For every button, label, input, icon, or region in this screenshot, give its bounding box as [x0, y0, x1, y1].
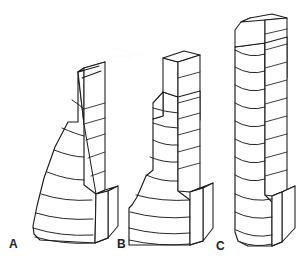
figure-b-right-face: [178, 91, 200, 192]
watermark-mark: [108, 49, 146, 59]
figure-a-step-front: [95, 191, 108, 243]
figure-a-right-face-upper: [84, 62, 105, 194]
figure-b-group: [129, 51, 213, 245]
figure-root: A B C: [0, 0, 302, 263]
figure-a-step-right: [108, 186, 118, 238]
figure-b-step-front: [190, 188, 203, 245]
figure-label-a: A: [9, 238, 18, 250]
figure-c-top-front: [235, 18, 265, 47]
figure-label-b: B: [117, 238, 126, 250]
figure-label-c: C: [216, 240, 225, 252]
figure-c-step-right: [282, 186, 295, 242]
figure-a-group: [33, 62, 118, 243]
figure-b-shoulder-facet: [153, 92, 163, 119]
figure-b-step-right: [203, 183, 213, 241]
figure-c-step-front: [272, 192, 282, 246]
figure-b-top-front: [163, 58, 178, 97]
figure-c-group: [235, 14, 295, 246]
figure-canvas: [0, 0, 302, 263]
